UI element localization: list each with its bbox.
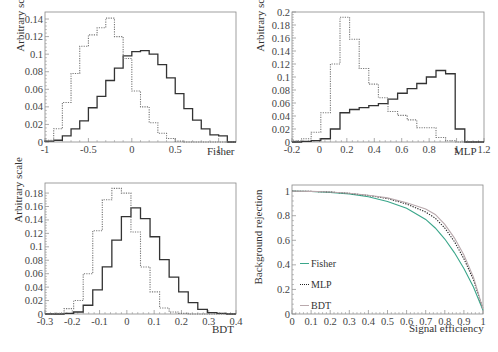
bdt-histogram-panel: 00.020.040.060.080.10.120.140.160.18-0.3…: [0, 176, 249, 352]
svg-text:1.2: 1.2: [477, 144, 490, 155]
bdt-x-axis-label: BDT: [212, 323, 234, 335]
signal-histogram-line: [45, 51, 236, 142]
svg-text:0.8: 0.8: [277, 210, 290, 221]
svg-text:0.08: 0.08: [272, 85, 290, 96]
svg-text:0.02: 0.02: [272, 124, 290, 135]
mlp-y-axis-label: Arbitrary scale: [254, 0, 266, 86]
svg-text:0.18: 0.18: [25, 188, 43, 199]
svg-text:0.4: 0.4: [277, 259, 291, 270]
mlp-line-icon: [300, 284, 309, 285]
svg-text:0.2: 0.2: [175, 316, 188, 327]
bdt-y-axis-label: Arbitrary scale: [12, 157, 24, 257]
plot-area: 00.020.040.060.080.10.120.14-1-0.500.51: [25, 12, 236, 155]
svg-text:0: 0: [124, 316, 129, 327]
mlp-histogram-panel: 00.020.040.060.080.10.120.140.160.180.2-…: [249, 0, 498, 176]
legend-label-mlp: MLP: [311, 274, 332, 295]
svg-text:0.06: 0.06: [272, 98, 290, 109]
legend-item-fisher: Fisher: [300, 253, 336, 274]
svg-text:0.08: 0.08: [25, 66, 43, 77]
svg-text:0.12: 0.12: [25, 228, 43, 239]
svg-text:0.06: 0.06: [25, 84, 43, 95]
svg-text:0.1: 0.1: [305, 316, 318, 327]
svg-text:-0.5: -0.5: [80, 144, 97, 155]
fisher-histogram-panel: 00.020.040.060.080.10.120.14-1-0.500.51 …: [0, 0, 249, 176]
svg-text:0.5: 0.5: [381, 316, 394, 327]
legend-label-fisher: Fisher: [311, 253, 336, 274]
background-histogram-line: [45, 18, 236, 142]
svg-text:0.02: 0.02: [25, 119, 43, 130]
svg-text:0.8: 0.8: [423, 144, 436, 155]
roc-legend: Fisher MLP BDT: [300, 253, 336, 316]
svg-text:0: 0: [317, 144, 322, 155]
svg-text:-0.2: -0.2: [284, 144, 301, 155]
mlp-x-axis-label: MLP: [454, 145, 477, 157]
svg-text:0.02: 0.02: [25, 295, 43, 306]
svg-text:0.04: 0.04: [25, 282, 44, 293]
svg-text:-0.3: -0.3: [37, 316, 54, 327]
svg-text:0: 0: [129, 144, 134, 155]
svg-text:0.5: 0.5: [169, 144, 182, 155]
svg-text:0.14: 0.14: [25, 214, 44, 225]
svg-text:0.04: 0.04: [25, 101, 44, 112]
svg-text:0.14: 0.14: [25, 14, 44, 25]
svg-text:-1: -1: [41, 144, 50, 155]
svg-text:0.4: 0.4: [362, 316, 376, 327]
svg-text:0.1: 0.1: [277, 72, 290, 83]
svg-text:0: 0: [289, 316, 294, 327]
legend-item-bdt: BDT: [300, 295, 336, 316]
roc-y-axis-label: Background rejection: [252, 177, 264, 297]
svg-text:0.12: 0.12: [25, 31, 43, 42]
svg-text:0.1: 0.1: [30, 49, 43, 60]
svg-text:0.6: 0.6: [395, 144, 408, 155]
svg-text:0.14: 0.14: [272, 46, 291, 57]
svg-text:0.18: 0.18: [272, 20, 290, 31]
fisher-line-icon: [300, 263, 309, 264]
svg-text:0.2: 0.2: [340, 144, 353, 155]
plot-area: 00.020.040.060.080.10.120.140.160.180.2-…: [272, 7, 491, 156]
bdt-line-icon: [300, 305, 309, 306]
svg-text:0.2: 0.2: [277, 7, 290, 18]
svg-text:1: 1: [285, 186, 290, 197]
svg-text:0.04: 0.04: [272, 111, 291, 122]
fisher-x-axis-label: Fisher: [207, 145, 235, 157]
svg-text:0.3: 0.3: [343, 316, 356, 327]
roc-x-axis-label: Signal efficiency: [409, 322, 484, 334]
svg-text:0.1: 0.1: [148, 316, 161, 327]
svg-text:0.2: 0.2: [324, 316, 337, 327]
roc-curve-panel: 00.20.40.60.8100.10.20.30.40.50.60.70.80…: [249, 176, 498, 352]
svg-text:0.6: 0.6: [277, 235, 290, 246]
svg-text:0.4: 0.4: [368, 144, 382, 155]
svg-text:0.06: 0.06: [25, 268, 43, 279]
fisher-y-axis-label: Arbitrary scale: [14, 0, 26, 86]
svg-text:-0.2: -0.2: [64, 316, 81, 327]
svg-text:0.08: 0.08: [25, 255, 43, 266]
svg-text:0.12: 0.12: [272, 59, 290, 70]
svg-text:-0.1: -0.1: [91, 316, 108, 327]
svg-text:0.1: 0.1: [30, 241, 43, 252]
svg-text:0.2: 0.2: [277, 284, 290, 295]
plot-area: 00.020.040.060.080.10.120.140.160.18-0.3…: [25, 183, 244, 327]
legend-label-bdt: BDT: [311, 295, 331, 316]
legend-item-mlp: MLP: [300, 274, 336, 295]
svg-text:0.16: 0.16: [25, 201, 43, 212]
svg-text:0.16: 0.16: [272, 33, 290, 44]
